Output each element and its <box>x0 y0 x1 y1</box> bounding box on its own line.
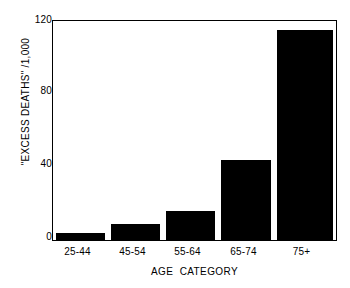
x-axis-title: AGE CATEGORY <box>52 266 337 277</box>
y-tick-label-0: 0 <box>22 232 52 242</box>
bar-series <box>53 21 336 240</box>
x-tick-label-75plus: 75+ <box>265 246 338 257</box>
bar-45-54 <box>111 224 160 240</box>
chart-screenshot: 120 80 40 0 "EXCESS DEATHS" /1,000 25-44… <box>0 0 350 288</box>
bar-slot-25-44 <box>56 21 105 240</box>
bar-slot-45-54 <box>111 21 160 240</box>
bar-65-74 <box>221 160 271 240</box>
bar-75plus <box>277 30 333 240</box>
bar-slot-65-74 <box>221 21 271 240</box>
y-axis-title: "EXCESS DEATHS" /1,000 <box>20 17 31 187</box>
bar-25-44 <box>56 233 105 240</box>
bar-slot-55-64 <box>166 21 215 240</box>
bar-55-64 <box>166 211 215 240</box>
bar-slot-75plus <box>277 21 333 240</box>
